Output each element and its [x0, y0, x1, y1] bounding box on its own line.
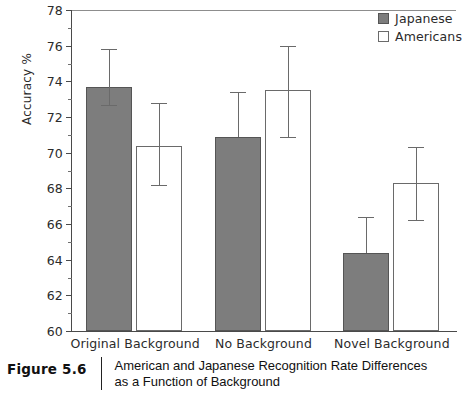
- error-bar-line: [288, 46, 289, 137]
- y-axis-tick-label: 72: [47, 110, 63, 125]
- y-axis-tick: [66, 46, 72, 47]
- y-axis-minor-tick: [68, 64, 72, 65]
- y-axis-minor-tick: [68, 28, 72, 29]
- error-bar-line: [238, 92, 239, 137]
- y-axis-title: Accuracy %: [20, 53, 34, 125]
- error-bar-cap: [151, 103, 167, 104]
- error-bar-line: [366, 217, 367, 253]
- error-bar-cap: [101, 49, 117, 50]
- y-axis-tick-label: 64: [47, 252, 63, 267]
- y-axis-minor-tick: [68, 313, 72, 314]
- error-bar-line: [109, 49, 110, 104]
- y-axis-minor-tick: [68, 242, 72, 243]
- legend-item-japanese: Japanese: [378, 11, 462, 26]
- caption-line-2: as a Function of Background: [115, 374, 281, 389]
- y-axis-tick: [66, 331, 72, 332]
- y-axis-minor-tick: [68, 206, 72, 207]
- y-axis-minor-tick: [68, 278, 72, 279]
- legend: JapaneseAmericans: [378, 11, 462, 44]
- error-bar-cap: [358, 217, 374, 218]
- y-axis-minor-tick: [68, 99, 72, 100]
- bar-japanese-novel-background: [343, 253, 389, 331]
- plot-area: 60626466687072747678: [71, 10, 457, 332]
- y-axis-tick: [66, 81, 72, 82]
- error-bar-cap: [151, 185, 167, 186]
- figure-caption: Figure 5.6 American and Japanese Recogni…: [0, 356, 471, 393]
- y-axis-tick: [66, 224, 72, 225]
- bar-japanese-original-background: [86, 87, 132, 331]
- y-axis-tick-label: 62: [47, 288, 63, 303]
- error-bar-cap: [230, 92, 246, 93]
- error-bar-cap: [280, 46, 296, 47]
- y-axis-tick-label: 76: [47, 38, 63, 53]
- y-axis-tick: [66, 10, 72, 11]
- x-axis-category-label: Novel Background: [334, 336, 450, 351]
- legend-item-americans: Americans: [378, 29, 462, 44]
- y-axis-tick: [66, 260, 72, 261]
- y-axis-tick-label: 70: [47, 145, 63, 160]
- error-bar-line: [416, 147, 417, 220]
- caption-line-1: American and Japanese Recognition Rate D…: [115, 358, 428, 373]
- y-axis-tick: [66, 117, 72, 118]
- error-bar-cap: [101, 105, 117, 106]
- bar-japanese-no-background: [215, 137, 261, 331]
- error-bar-cap: [280, 137, 296, 138]
- error-bar-cap: [408, 147, 424, 148]
- legend-label: Japanese: [395, 11, 453, 26]
- x-axis-category-label: No Background: [215, 336, 312, 351]
- x-axis-category-label: Original Background: [70, 336, 199, 351]
- caption-text: American and Japanese Recognition Rate D…: [102, 356, 428, 390]
- y-axis-tick-label: 74: [47, 74, 63, 89]
- y-axis-tick-label: 66: [47, 217, 63, 232]
- legend-swatch-icon: [378, 31, 389, 42]
- y-axis-tick-label: 68: [47, 181, 63, 196]
- y-axis-tick: [66, 295, 72, 296]
- legend-label: Americans: [395, 29, 462, 44]
- error-bar-cap: [408, 220, 424, 221]
- figure-number: Figure 5.6: [0, 356, 87, 377]
- legend-swatch-icon: [378, 13, 389, 24]
- error-bar-line: [159, 103, 160, 185]
- figure-container: Accuracy % 60626466687072747678 Japanese…: [0, 0, 471, 393]
- y-axis-tick-label: 60: [47, 324, 63, 339]
- y-axis-minor-tick: [68, 135, 72, 136]
- y-axis-minor-tick: [68, 171, 72, 172]
- y-axis-tick: [66, 153, 72, 154]
- y-axis-tick: [66, 188, 72, 189]
- y-axis-tick-label: 78: [47, 3, 63, 18]
